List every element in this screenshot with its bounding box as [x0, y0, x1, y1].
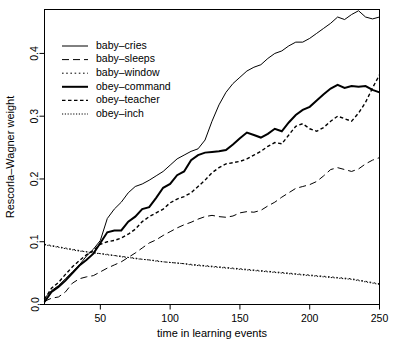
data-series-group — [45, 11, 380, 302]
series-line-baby-cries — [45, 11, 380, 298]
x-axis-title: time in learning events — [157, 327, 268, 339]
legend-label-obey-teacher: obey–teacher — [96, 93, 160, 105]
x-tick-label: 150 — [231, 312, 249, 324]
y-tick-label: 0.3 — [29, 109, 41, 124]
y-tick-label: 0.1 — [29, 234, 41, 249]
x-tick-label: 250 — [371, 312, 389, 324]
y-axis-ticks: 0.00.10.20.30.4 — [29, 46, 45, 312]
x-tick-label: 200 — [301, 312, 319, 324]
series-line-baby-sleeps — [45, 158, 380, 302]
y-tick-label: 0.4 — [29, 46, 41, 61]
chart-canvas: 50100150200250 0.00.10.20.30.4 baby–crie… — [0, 0, 398, 351]
y-axis-title: Rescorla–Wagner weight — [4, 96, 16, 218]
x-tick-label: 100 — [161, 312, 179, 324]
chart-legend: baby–criesbaby–sleepsbaby–windowobey–com… — [62, 39, 171, 119]
plot-frame — [45, 10, 380, 305]
legend-label-obey-command: obey–command — [96, 80, 171, 92]
legend-label-obey-inch: obey–inch — [96, 107, 144, 119]
legend-label-baby-sleeps: baby–sleeps — [96, 52, 155, 64]
chart-figure: 50100150200250 0.00.10.20.30.4 baby–crie… — [0, 0, 398, 351]
series-line-obey-command — [45, 85, 380, 302]
x-tick-label: 50 — [94, 312, 106, 324]
x-axis-ticks: 50100150200250 — [94, 305, 388, 324]
legend-label-baby-cries: baby–cries — [96, 39, 147, 51]
legend-label-baby-window: baby–window — [96, 66, 160, 78]
y-tick-label: 0.0 — [29, 297, 41, 312]
y-tick-label: 0.2 — [29, 172, 41, 187]
